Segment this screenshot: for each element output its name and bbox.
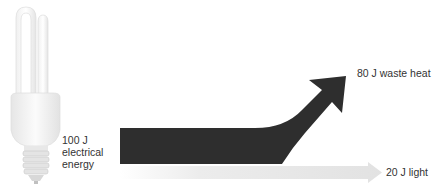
compact-fluorescent-bulb-icon — [11, 7, 60, 184]
input-energy-type-line1: electrical — [62, 146, 103, 158]
input-energy-label: 100 J electrical energy — [62, 134, 103, 170]
input-energy-type-line2: energy — [62, 158, 103, 170]
light-arrow — [120, 162, 382, 183]
waste-heat-arrow — [120, 76, 346, 164]
input-energy-amount: 100 J — [62, 134, 103, 146]
waste-heat-label: 80 J waste heat — [357, 67, 431, 79]
light-output-label: 20 J light — [386, 166, 428, 178]
